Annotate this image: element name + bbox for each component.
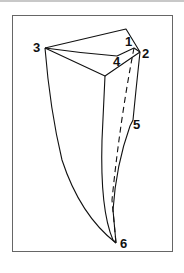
edge-right: [113, 52, 140, 243]
label-4: 4: [113, 54, 121, 69]
label-1: 1: [125, 34, 132, 49]
label-3: 3: [33, 40, 40, 55]
edge-hidden: [112, 48, 134, 243]
diagram-canvas: 3 1 2 4 5 6: [0, 0, 184, 273]
label-2: 2: [142, 46, 149, 61]
label-5: 5: [133, 117, 140, 132]
label-6: 6: [120, 236, 127, 251]
